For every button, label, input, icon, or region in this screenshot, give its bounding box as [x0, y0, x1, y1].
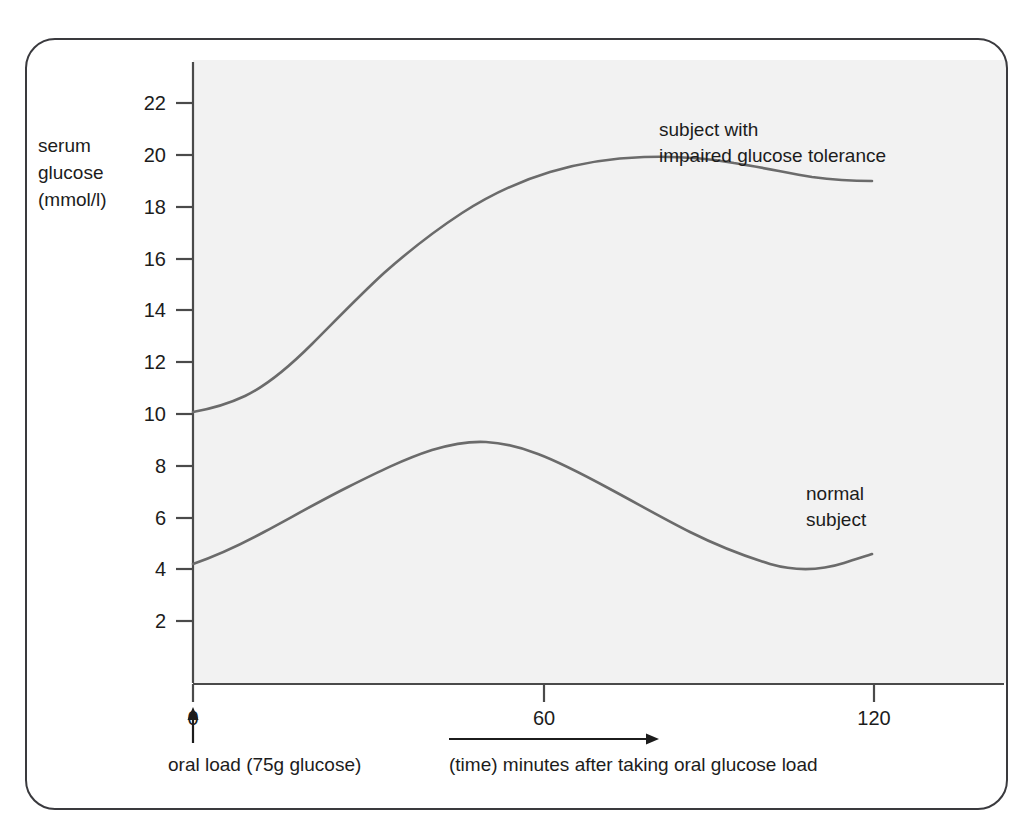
series-label-impaired-glucose-tolerance: subject withimpaired glucose tolerance: [659, 117, 886, 169]
x-tick-label-60: 60: [514, 706, 574, 732]
series-line-impaired-glucose-tolerance: [193, 157, 872, 412]
y-tick-label-18: 18: [120, 195, 166, 221]
y-tick-label-2: 2: [120, 609, 166, 635]
y-tick-label-16: 16: [120, 247, 166, 273]
series-label-impaired-line-2: impaired glucose tolerance: [659, 145, 886, 166]
series-label-impaired-line-1: subject with: [659, 119, 758, 140]
series-label-normal-line-2: subject: [806, 509, 866, 530]
y-axis-title-line-3: (mmol/l): [38, 189, 107, 210]
series-label-normal-line-1: normal: [806, 483, 864, 504]
y-tick-label-10: 10: [120, 402, 166, 428]
y-tick-label-4: 4: [120, 557, 166, 583]
y-tick-label-20: 20: [120, 143, 166, 169]
y-tick-label-12: 12: [120, 350, 166, 376]
series-line-normal-subject: [193, 442, 872, 569]
figure-container: serumglucose(mmol/l) 22 20 18 16 14 12 1…: [0, 0, 1030, 833]
x-tick-label-120: 120: [844, 706, 904, 732]
time-direction-arrow-icon: [449, 734, 659, 745]
y-tick-marks: [176, 103, 193, 621]
y-tick-label-6: 6: [120, 506, 166, 532]
x-axis-caption: (time) minutes after taking oral glucose…: [449, 753, 818, 777]
x-tick-marks: [193, 684, 874, 702]
y-tick-label-22: 22: [120, 91, 166, 117]
y-tick-label-14: 14: [120, 298, 166, 324]
y-axis-title-line-2: glucose: [38, 162, 104, 183]
series-label-normal-subject: normalsubject: [806, 481, 866, 533]
y-tick-label-8: 8: [120, 454, 166, 480]
oral-load-annotation: oral load (75g glucose): [168, 753, 361, 777]
x-tick-label-0: 0: [163, 706, 223, 732]
y-axis-title: serumglucose(mmol/l): [38, 133, 107, 214]
y-axis-title-line-1: serum: [38, 135, 91, 156]
